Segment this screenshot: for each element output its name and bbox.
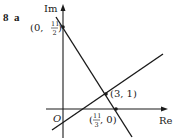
label-x-intercept: ( 11 3 , 0) xyxy=(89,112,117,129)
real-axis-label: Re xyxy=(159,115,173,126)
point-intersection xyxy=(104,92,108,96)
label-y-intercept-close: ) xyxy=(58,22,62,33)
label-y-intercept: (0, 11 2 ) xyxy=(30,20,62,37)
imaginary-axis-arrow-icon xyxy=(61,4,66,11)
real-axis-arrow-icon xyxy=(161,107,168,112)
label-x-intercept-rest: , 0) xyxy=(100,114,117,125)
label-y-intercept-den: 2 xyxy=(53,29,57,37)
label-y-intercept-prefix: (0, xyxy=(30,22,43,33)
argand-diagram: Im Re O (0, 11 2 ) (3, 1) ( 11 3 , 0) xyxy=(0,0,176,138)
imaginary-axis-label: Im xyxy=(44,3,58,14)
label-intersection: (3, 1) xyxy=(110,88,137,99)
label-x-intercept-den: 3 xyxy=(95,121,99,129)
point-x-intercept xyxy=(114,107,118,111)
origin-label: O xyxy=(53,113,61,124)
